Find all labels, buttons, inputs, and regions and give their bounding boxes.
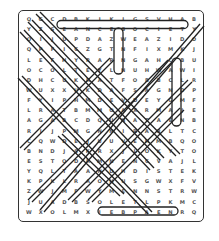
grid-cell[interactable]: A: [141, 126, 153, 136]
grid-cell[interactable]: O: [188, 146, 200, 156]
grid-cell[interactable]: L: [58, 207, 70, 217]
grid-cell[interactable]: D: [70, 156, 82, 166]
grid-cell[interactable]: N: [141, 186, 153, 196]
grid-cell[interactable]: J: [82, 136, 94, 146]
grid-cell[interactable]: N: [94, 126, 106, 136]
grid-cell[interactable]: T: [106, 44, 118, 54]
grid-cell[interactable]: J: [117, 146, 129, 156]
grid-cell[interactable]: J: [176, 156, 188, 166]
grid-cell[interactable]: A: [129, 115, 141, 125]
grid-cell[interactable]: B: [188, 14, 200, 24]
grid-cell[interactable]: C: [47, 14, 59, 24]
grid-cell[interactable]: R: [23, 126, 35, 136]
grid-cell[interactable]: N: [165, 207, 177, 217]
grid-cell[interactable]: V: [153, 14, 165, 24]
grid-cell[interactable]: I: [188, 65, 200, 75]
grid-cell[interactable]: S: [129, 176, 141, 186]
grid-cell[interactable]: C: [70, 44, 82, 54]
grid-cell[interactable]: B: [58, 115, 70, 125]
grid-cell[interactable]: T: [106, 75, 118, 85]
grid-cell[interactable]: Z: [153, 34, 165, 44]
grid-cell[interactable]: H: [141, 136, 153, 146]
grid-cell[interactable]: C: [188, 197, 200, 207]
grid-cell[interactable]: Y: [165, 146, 177, 156]
grid-cell[interactable]: C: [47, 75, 59, 85]
grid-cell[interactable]: A: [165, 105, 177, 115]
grid-cell[interactable]: M: [82, 95, 94, 105]
grid-cell[interactable]: C: [23, 136, 35, 146]
grid-cell[interactable]: K: [106, 14, 118, 24]
grid-cell[interactable]: F: [117, 85, 129, 95]
grid-cell[interactable]: T: [141, 115, 153, 125]
grid-cell[interactable]: B: [165, 136, 177, 146]
grid-cell[interactable]: L: [58, 65, 70, 75]
grid-cell[interactable]: O: [106, 105, 118, 115]
grid-cell[interactable]: N: [176, 115, 188, 125]
grid-cell[interactable]: Y: [35, 95, 47, 105]
grid-cell[interactable]: Q: [35, 166, 47, 176]
grid-cell[interactable]: Q: [94, 115, 106, 125]
grid-cell[interactable]: C: [188, 126, 200, 136]
grid-cell[interactable]: E: [35, 55, 47, 65]
grid-cell[interactable]: F: [23, 95, 35, 105]
grid-cell[interactable]: X: [47, 85, 59, 95]
grid-cell[interactable]: G: [94, 44, 106, 54]
grid-cell[interactable]: D: [23, 75, 35, 85]
grid-cell[interactable]: O: [188, 34, 200, 44]
grid-cell[interactable]: D: [58, 14, 70, 24]
grid-cell[interactable]: E: [165, 24, 177, 34]
grid-cell[interactable]: E: [23, 156, 35, 166]
grid-cell[interactable]: G: [35, 14, 47, 24]
grid-cell[interactable]: B: [70, 197, 82, 207]
grid-cell[interactable]: A: [141, 85, 153, 95]
grid-cell[interactable]: F: [117, 75, 129, 85]
grid-cell[interactable]: L: [106, 197, 118, 207]
grid-cell[interactable]: A: [70, 24, 82, 34]
grid-cell[interactable]: I: [141, 166, 153, 176]
grid-cell[interactable]: Z: [106, 34, 118, 44]
grid-cell[interactable]: T: [176, 24, 188, 34]
grid-cell[interactable]: M: [94, 105, 106, 115]
grid-cell[interactable]: A: [165, 156, 177, 166]
grid-cell[interactable]: A: [47, 197, 59, 207]
grid-cell[interactable]: S: [117, 24, 129, 34]
grid-cell[interactable]: O: [47, 207, 59, 217]
grid-cell[interactable]: J: [47, 34, 59, 44]
grid-cell[interactable]: S: [153, 166, 165, 176]
grid-cell[interactable]: Q: [176, 136, 188, 146]
grid-cell[interactable]: P: [58, 126, 70, 136]
grid-cell[interactable]: S: [141, 14, 153, 24]
grid-cell[interactable]: I: [94, 14, 106, 24]
grid-cell[interactable]: A: [153, 115, 165, 125]
grid-cell[interactable]: U: [117, 176, 129, 186]
grid-cell[interactable]: D: [82, 115, 94, 125]
grid-cell[interactable]: L: [23, 55, 35, 65]
grid-cell[interactable]: B: [141, 75, 153, 85]
grid-cell[interactable]: G: [82, 126, 94, 136]
grid-cell[interactable]: C: [35, 65, 47, 75]
grid-cell[interactable]: M: [82, 105, 94, 115]
grid-cell[interactable]: W: [47, 136, 59, 146]
grid-cell[interactable]: V: [117, 136, 129, 146]
grid-cell[interactable]: O: [47, 65, 59, 75]
grid-cell[interactable]: Z: [35, 24, 47, 34]
grid-cell[interactable]: B: [188, 115, 200, 125]
grid-cell[interactable]: U: [58, 75, 70, 85]
grid-cell[interactable]: E: [129, 136, 141, 146]
grid-cell[interactable]: W: [153, 65, 165, 75]
grid-cell[interactable]: T: [176, 126, 188, 136]
grid-cell[interactable]: M: [70, 126, 82, 136]
grid-cell[interactable]: M: [106, 186, 118, 196]
grid-cell[interactable]: B: [70, 105, 82, 115]
grid-cell[interactable]: N: [117, 65, 129, 75]
grid-cell[interactable]: E: [188, 105, 200, 115]
grid-cell[interactable]: B: [117, 207, 129, 217]
grid-cell[interactable]: O: [58, 156, 70, 166]
grid-cell[interactable]: H: [35, 75, 47, 85]
grid-cell[interactable]: F: [47, 44, 59, 54]
grid-cell[interactable]: X: [106, 146, 118, 156]
grid-cell[interactable]: Q: [35, 136, 47, 146]
grid-cell[interactable]: R: [188, 75, 200, 85]
grid-cell[interactable]: N: [82, 24, 94, 34]
grid-cell[interactable]: O: [129, 75, 141, 85]
